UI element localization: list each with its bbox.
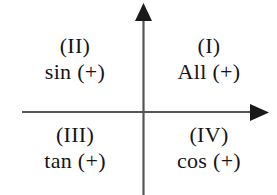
x-axis-arrow-icon <box>250 104 269 121</box>
quadrant-3-roman: (III) <box>16 122 134 148</box>
quadrant-sign-diagram: (II) sin (+) (I) All (+) (III) tan (+) (… <box>0 0 277 195</box>
quadrant-label-4: (IV) cos (+) <box>150 122 268 174</box>
quadrant-1-roman: (I) <box>150 33 268 59</box>
quadrant-label-1: (I) All (+) <box>150 33 268 85</box>
quadrant-label-3: (III) tan (+) <box>16 122 134 174</box>
quadrant-label-2: (II) sin (+) <box>16 33 134 85</box>
quadrant-1-functions: All (+) <box>150 59 268 85</box>
y-axis-arrow-icon <box>135 3 152 21</box>
quadrant-3-functions: tan (+) <box>16 148 134 174</box>
quadrant-4-roman: (IV) <box>150 122 268 148</box>
quadrant-2-roman: (II) <box>16 33 134 59</box>
quadrant-4-functions: cos (+) <box>150 148 268 174</box>
quadrant-2-functions: sin (+) <box>16 59 134 85</box>
